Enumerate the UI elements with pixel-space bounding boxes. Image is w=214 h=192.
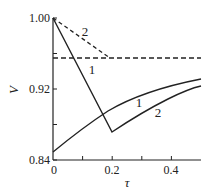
y-axis-label: V: [6, 84, 21, 94]
label-curve-2-dashed: 2: [82, 24, 89, 39]
x-axis-label: τ: [125, 175, 131, 190]
label-curve-1-solid: 1: [136, 95, 143, 110]
x-tick-label-0.2: 0.2: [105, 163, 120, 177]
label-curve-1-dashed: 1: [89, 62, 96, 77]
y-tick-label-0.92: 0.92: [29, 82, 50, 96]
curve-2-solid: [53, 18, 201, 132]
x-tick-label-0.4: 0.4: [164, 163, 179, 177]
x-tick-label-0: 0: [51, 163, 57, 177]
y-tick-label-0.84: 0.84: [29, 153, 50, 167]
label-curve-2-solid: 2: [155, 105, 162, 120]
y-tick-label-1.00: 1.00: [29, 11, 50, 25]
curve-1-solid: [53, 79, 201, 152]
chart: 1.00 0.92 0.84 0 0.2 0.4 τ V 2 1 1 2: [0, 0, 214, 192]
